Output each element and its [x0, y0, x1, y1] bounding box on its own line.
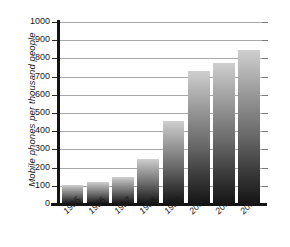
bar-chart-figure: Mobile phones per thousand people 010020… [0, 0, 290, 247]
y-axis-tick-mark-right [262, 113, 268, 114]
y-axis-tick-label: 300 [8, 143, 50, 153]
y-axis-tick-mark-right [262, 168, 268, 169]
y-axis-tick-label: 700 [8, 71, 50, 81]
y-axis-tick-mark-right [262, 131, 268, 132]
y-axis-tick-mark-right [262, 22, 268, 23]
gridline [60, 22, 262, 23]
y-axis-tick-label: 1000 [8, 16, 50, 26]
y-axis-tick-mark-right [262, 77, 268, 78]
y-axis-tick-label: 0 [8, 198, 50, 208]
y-axis-tick-label: 500 [8, 107, 50, 117]
y-axis-tick-label: 100 [8, 180, 50, 190]
gridline [60, 40, 262, 41]
y-axis-line [57, 20, 60, 206]
y-axis-tick-mark-right [262, 58, 268, 59]
y-axis-tick-label: 600 [8, 89, 50, 99]
bar-2001 [213, 63, 235, 204]
x-axis-line [51, 203, 267, 206]
bar-2000 [188, 71, 210, 204]
y-axis-tick-label: 200 [8, 162, 50, 172]
y-axis-tick-mark-right [262, 95, 268, 96]
bar-2002 [238, 50, 260, 204]
plot-area [60, 22, 262, 204]
y-axis-tick-labels: 01002003004005006007008009001000 [6, 0, 50, 247]
gridline [60, 58, 262, 59]
y-axis-tick-mark-right [262, 149, 268, 150]
y-axis-tick-label: 800 [8, 52, 50, 62]
y-axis-tick-mark-right [262, 40, 268, 41]
y-axis-tick-label: 900 [8, 34, 50, 44]
y-axis-tick-label: 400 [8, 125, 50, 135]
